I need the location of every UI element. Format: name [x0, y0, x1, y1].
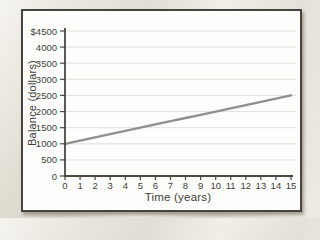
y-tick-label: 1000: [36, 138, 57, 149]
x-tick-label: 5: [138, 180, 143, 191]
x-axis-title: Time (years): [65, 191, 291, 203]
x-tick-label: 2: [92, 180, 97, 191]
y-axis-title: Balance (dollars): [26, 60, 38, 146]
y-tick-label: 1500: [36, 122, 57, 133]
line-chart: 05001000150020002500300035004000$4500012…: [23, 11, 300, 210]
x-tick-label: 7: [168, 180, 173, 191]
y-tick-label: 2000: [36, 106, 57, 117]
x-tick-label: 9: [198, 180, 203, 191]
y-tick-label: 3000: [36, 74, 57, 85]
y-tick-label: $4500: [31, 26, 57, 37]
y-tick-label: 500: [41, 154, 57, 165]
x-tick-label: 1: [77, 180, 82, 191]
y-tick-label: 0: [52, 171, 57, 182]
y-tick-label: 2500: [36, 90, 57, 101]
x-tick-label: 6: [153, 180, 158, 191]
x-tick-label: 0: [62, 180, 67, 191]
y-tick-label: 3500: [36, 58, 57, 69]
y-tick-label: 4000: [36, 42, 57, 53]
x-tick-label: 12: [241, 180, 252, 191]
chart-panel: 05001000150020002500300035004000$4500012…: [21, 9, 302, 212]
x-tick-label: 8: [183, 180, 188, 191]
x-tick-label: 3: [108, 180, 113, 191]
x-tick-label: 13: [256, 180, 267, 191]
data-line: [65, 95, 291, 143]
x-tick-label: 15: [286, 180, 297, 191]
x-tick-label: 14: [271, 180, 282, 191]
x-tick-label: 4: [123, 180, 128, 191]
x-tick-label: 11: [226, 180, 236, 191]
x-tick-label: 10: [210, 180, 221, 191]
